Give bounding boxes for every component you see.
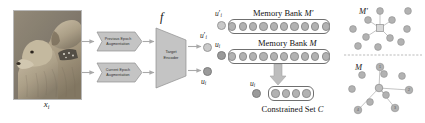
memory-bank-prime-slot (290, 22, 298, 30)
memory-bank-prime-side-label: u′i (215, 9, 222, 18)
cs-caption-text: Constrained Set (262, 104, 318, 114)
augmentation-label-current-epoch: Current Epoch Augmentation (99, 62, 137, 83)
target-encoder-label: Target Encoder (155, 49, 187, 60)
memory-bank-slot (322, 52, 330, 60)
constrained-set-box[interactable] (268, 86, 314, 101)
figure-root: xi Previous Epoch Augmentation Current E… (0, 0, 425, 123)
anchor-node-prime (377, 25, 384, 32)
memory-bank-prime-slot (280, 22, 288, 30)
augmentation-label-previous-epoch: Previous Epoch Augmentation (99, 31, 137, 52)
target-encoder-block[interactable]: Target Encoder (155, 27, 187, 89)
memory-bank-slot (301, 52, 309, 60)
aug-curr-line2: Augmentation (106, 73, 129, 78)
memory-bank-side-label: ui (215, 40, 220, 49)
mb-title-symbol: M (309, 38, 316, 48)
encoder-line2: Encoder (164, 55, 179, 61)
memory-bank-slot (280, 52, 288, 60)
memory-bank-prime-slot (311, 22, 319, 30)
anchor-node-m (375, 84, 383, 92)
input-caption: xi (13, 99, 80, 110)
embedding-scatter-m-prime (340, 0, 425, 57)
memory-bank-title: Memory Bank M (258, 38, 317, 48)
memory-bank-prime-title: Memory Bank M′ (253, 8, 313, 18)
memory-bank-prime-slot (322, 22, 330, 30)
memory-bank-slot (290, 52, 298, 60)
mb-prime-title-symbol: M′ (304, 8, 313, 18)
node-label-2: 2 (408, 88, 410, 92)
dog-photo (14, 11, 81, 99)
embedding-graph-m: 1 2 3 4 (340, 58, 425, 123)
constrained-set-slot (282, 89, 290, 97)
constrained-set-slot (302, 89, 310, 97)
memory-bank-prime-slot (270, 22, 278, 30)
node-label-1: 1 (379, 65, 381, 69)
constrained-set-side-dot (252, 89, 261, 98)
memory-bank-slot (249, 52, 257, 60)
cs-caption-symbol: C (318, 104, 324, 114)
memory-bank-prime-side-dot (217, 21, 226, 30)
memory-bank-slot (228, 52, 236, 60)
augmentation-block-previous-epoch[interactable]: Previous Epoch Augmentation (96, 31, 143, 52)
memory-bank-slot (259, 52, 267, 60)
memory-bank-slot (239, 52, 247, 60)
panel-m: 1 2 3 4 (340, 58, 425, 123)
memory-bank-prime-slot (239, 22, 247, 30)
encoder-output-dot-u-prime (203, 43, 212, 52)
input-caption-sub: i (48, 104, 50, 110)
node-label-4: 4 (357, 108, 359, 112)
input-image (13, 10, 82, 100)
encoder-symbol: f (160, 10, 163, 25)
memory-bank-prime-slot (249, 22, 257, 30)
memory-bank-slot (311, 52, 319, 60)
constrained-set-caption: Constrained Set C (255, 104, 330, 114)
memory-bank-prime-box[interactable] (228, 19, 330, 34)
memory-bank-prime-slot (259, 22, 267, 30)
memory-bank-prime-slot (301, 22, 309, 30)
node-label-3: 3 (394, 106, 396, 110)
constrained-set-slot (292, 89, 300, 97)
memory-bank-prime-slot (228, 22, 236, 30)
constrained-set-slot (271, 89, 279, 97)
encoder-output-label-u-prime: u′i (200, 31, 207, 40)
encoder-output-label-u: ui (201, 77, 206, 86)
memory-bank-box[interactable] (228, 49, 330, 64)
augmentation-block-current-epoch[interactable]: Current Epoch Augmentation (96, 62, 143, 83)
panel-m-prime (340, 0, 425, 57)
mb-title-text: Memory Bank (258, 38, 309, 48)
encoder-output-dot-u (203, 67, 212, 76)
memory-bank-slot (270, 52, 278, 60)
aug-prev-line2: Augmentation (106, 42, 129, 47)
memory-bank-side-dot (217, 51, 226, 60)
mb-prime-title-text: Memory Bank (253, 8, 304, 18)
constrained-set-side-label: ui (250, 79, 255, 88)
arrow-bank-to-constrained-set (270, 64, 286, 85)
